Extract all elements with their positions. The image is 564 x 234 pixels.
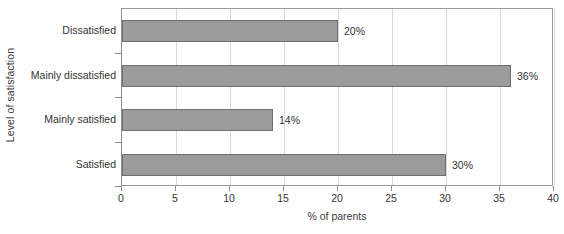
y-axis-tick: [115, 142, 121, 143]
x-axis-tick-label: 10: [223, 192, 235, 204]
x-axis-tick-label: 35: [493, 192, 505, 204]
x-axis-tick: [553, 186, 554, 191]
gridline: [500, 9, 501, 185]
x-axis-ticks: 0510152025303540: [121, 186, 553, 210]
x-axis-tick-label: 40: [547, 192, 559, 204]
x-axis-title: % of parents: [121, 210, 553, 222]
category-axis-labels: DissatisfiedMainly dissatisfiedMainly sa…: [22, 8, 116, 186]
gridline: [446, 9, 447, 185]
bar-value-label: 30%: [452, 159, 473, 171]
y-axis-tick: [115, 53, 121, 54]
x-axis-tick: [499, 186, 500, 191]
bar-value-label: 20%: [344, 25, 365, 37]
x-axis-tick: [391, 186, 392, 191]
bar-value-label: 14%: [279, 114, 300, 126]
category-label: Satisfied: [22, 158, 116, 170]
category-label: Mainly satisfied: [22, 113, 116, 125]
y-axis-title: Level of satisfaction: [0, 0, 20, 190]
bar: [122, 65, 511, 87]
bar-chart: Level of satisfaction DissatisfiedMainly…: [0, 0, 564, 234]
x-axis-tick: [229, 186, 230, 191]
x-axis-tick-label: 15: [277, 192, 289, 204]
x-axis-tick-label: 25: [385, 192, 397, 204]
x-axis-tick: [445, 186, 446, 191]
y-axis-title-text: Level of satisfaction: [4, 48, 16, 142]
x-axis-tick: [175, 186, 176, 191]
x-axis-tick-label: 20: [331, 192, 343, 204]
x-axis-tick-label: 5: [172, 192, 178, 204]
bar: [122, 20, 338, 42]
x-axis-tick-label: 30: [439, 192, 451, 204]
gridline: [554, 9, 555, 185]
bar-value-label: 36%: [517, 70, 538, 82]
bar: [122, 109, 273, 131]
y-axis-tick: [115, 186, 121, 187]
x-axis-tick: [121, 186, 122, 191]
x-axis-tick: [283, 186, 284, 191]
plot-area: 20%36%14%30%: [121, 8, 553, 186]
bar: [122, 154, 446, 176]
y-axis-tick: [115, 97, 121, 98]
x-axis-tick-label: 0: [118, 192, 124, 204]
x-axis-tick: [337, 186, 338, 191]
category-label: Dissatisfied: [22, 24, 116, 36]
category-label: Mainly dissatisfied: [22, 69, 116, 81]
